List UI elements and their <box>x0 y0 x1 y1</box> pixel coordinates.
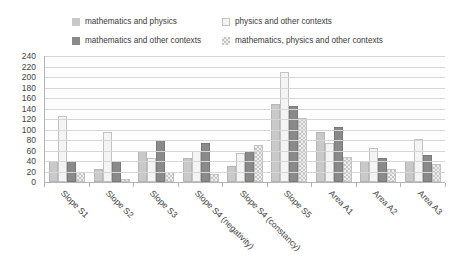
x-axis-tickmark <box>222 183 223 187</box>
y-axis-tick-label: 120 <box>22 115 36 124</box>
gridline <box>45 161 445 162</box>
legend-swatch-icon <box>72 18 80 26</box>
y-axis-labels: 240220200180160140120100806040200 <box>0 56 40 182</box>
bar[interactable] <box>271 104 280 182</box>
x-axis-labels: Slope S1Slope S2Slope S3Slope S4 (negati… <box>44 188 445 274</box>
bar[interactable] <box>201 143 210 182</box>
x-axis-tickmark <box>44 183 45 187</box>
x-axis-tickmark <box>311 183 312 187</box>
x-axis-label: Slope S5 <box>282 188 314 220</box>
y-axis-tick-label: 180 <box>22 83 36 92</box>
bar[interactable] <box>192 151 201 183</box>
legend-item[interactable]: mathematics and physics <box>72 12 214 31</box>
legend-label: mathematics and physics <box>85 17 177 26</box>
x-axis-label: Slope S2 <box>104 188 136 220</box>
gridline <box>45 130 445 131</box>
gridline <box>45 119 445 120</box>
gridline <box>45 67 445 68</box>
legend-swatch-icon <box>222 37 230 45</box>
legend-item[interactable]: mathematics, physics and other contexts <box>222 31 432 50</box>
y-axis-tick-label: 140 <box>22 104 36 113</box>
y-axis-tick-label: 20 <box>27 167 36 176</box>
y-axis-tick-label: 100 <box>22 125 36 134</box>
bar[interactable] <box>210 174 219 182</box>
gridline <box>45 88 445 89</box>
x-axis-label: Area A1 <box>327 188 356 217</box>
y-axis-tick-label: 240 <box>22 52 36 61</box>
y-axis-tick-label: 220 <box>22 62 36 71</box>
bar[interactable] <box>236 153 245 182</box>
x-axis-tickmark <box>356 183 357 187</box>
legend-label: mathematics, physics and other contexts <box>235 36 383 45</box>
bar[interactable] <box>369 148 378 182</box>
gridline <box>45 109 445 110</box>
legend-label: mathematics and other contexts <box>85 36 201 45</box>
bar[interactable] <box>227 166 236 182</box>
bar[interactable] <box>76 172 85 183</box>
legend-label: physics and other contexts <box>235 17 332 26</box>
bar[interactable] <box>325 143 334 182</box>
x-axis-tickmark <box>133 183 134 187</box>
bar[interactable] <box>121 179 130 182</box>
gridline <box>45 98 445 99</box>
x-axis-tickmark <box>445 183 446 187</box>
bar[interactable] <box>138 151 147 183</box>
y-axis-tick-label: 200 <box>22 73 36 82</box>
bar[interactable] <box>423 155 432 182</box>
plot-grid <box>44 56 445 183</box>
gridline <box>45 140 445 141</box>
bar[interactable] <box>245 151 254 183</box>
gridline <box>45 151 445 152</box>
y-axis-tick-label: 80 <box>27 136 36 145</box>
bar[interactable] <box>165 172 174 183</box>
x-axis-tickmark <box>178 183 179 187</box>
x-axis-label: Slope S3 <box>148 188 180 220</box>
y-axis-tick-label: 160 <box>22 94 36 103</box>
chart-plot-area: 240220200180160140120100806040200 <box>0 56 451 186</box>
gridline <box>45 77 445 78</box>
bar[interactable] <box>334 127 343 182</box>
x-axis-tickmark <box>400 183 401 187</box>
y-axis-tick-label: 60 <box>27 146 36 155</box>
gridline <box>45 56 445 57</box>
x-axis-label: Slope S1 <box>59 188 91 220</box>
y-axis-tick-label: 40 <box>27 157 36 166</box>
x-axis-label: Area A2 <box>371 188 400 217</box>
x-axis-tickmarks <box>44 183 445 187</box>
legend-item[interactable]: mathematics and other contexts <box>72 31 214 50</box>
gridline <box>45 172 445 173</box>
legend-item[interactable]: physics and other contexts <box>222 12 432 31</box>
x-axis-label: Area A3 <box>416 188 445 217</box>
chart-legend: mathematics and physicsphysics and other… <box>72 12 432 50</box>
x-axis-tickmark <box>89 183 90 187</box>
legend-swatch-icon <box>72 37 80 45</box>
x-axis-tickmark <box>267 183 268 187</box>
bar[interactable] <box>432 164 441 182</box>
legend-swatch-icon <box>222 18 230 26</box>
y-axis-tick-label: 0 <box>31 178 36 187</box>
